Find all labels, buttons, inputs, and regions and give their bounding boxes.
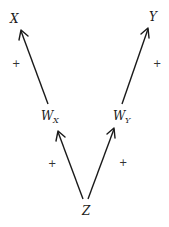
edge-wx-to-x [19, 30, 48, 104]
node-wy: W Y [113, 109, 131, 125]
node-wy-subscript: Y [125, 116, 131, 125]
edge-z-to-wx [56, 131, 83, 199]
path-diagram: X Y W X W Y Z + + + + [0, 0, 169, 227]
edge-line [21, 31, 48, 104]
sign-wx-to-x: + [12, 58, 20, 69]
sign-z-to-wy: + [119, 157, 127, 168]
node-z-label: Z [81, 204, 91, 218]
node-x-label: X [9, 12, 19, 26]
sign-z-to-wx: + [48, 158, 56, 169]
node-wx-subscript: X [52, 116, 59, 125]
edge-line [122, 29, 148, 104]
edge-line [88, 129, 114, 199]
node-wx: W X [41, 109, 59, 125]
sign-wy-to-y: + [153, 58, 161, 69]
edge-z-to-wy [88, 128, 115, 199]
edge-wy-to-y [122, 28, 149, 104]
node-y-label: Y [149, 10, 158, 24]
edge-line [58, 132, 83, 199]
